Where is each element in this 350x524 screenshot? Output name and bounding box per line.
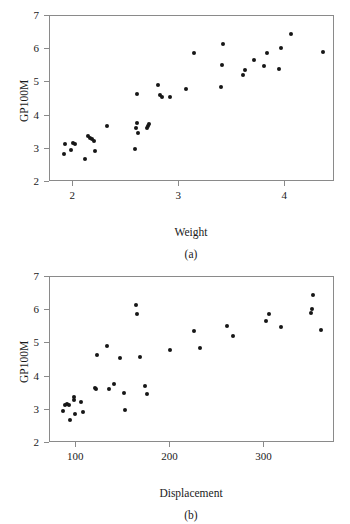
data-point-b	[68, 418, 72, 422]
data-point-a	[160, 95, 164, 99]
y-tick-label-b: 6	[17, 304, 39, 315]
y-tick-a	[44, 115, 49, 116]
chart-panel-a: 234567 234 GP100M Weight (a)	[0, 0, 350, 262]
data-point-a	[63, 142, 67, 146]
data-point-a	[321, 50, 325, 54]
x-tick-label-a: 3	[176, 190, 182, 201]
data-point-b	[198, 346, 202, 350]
data-point-a	[289, 32, 293, 36]
data-point-b	[279, 325, 283, 329]
x-tick-b	[263, 442, 264, 447]
data-point-b	[81, 410, 85, 414]
data-point-a	[168, 95, 172, 99]
data-point-a	[134, 126, 138, 130]
data-point-b	[231, 334, 235, 338]
data-point-a	[92, 139, 96, 143]
data-point-b	[118, 356, 122, 360]
y-tick-label-a: 6	[17, 43, 39, 54]
data-point-a	[279, 46, 283, 50]
data-point-b	[79, 400, 83, 404]
y-tick-label-b: 7	[17, 271, 39, 282]
y-tick-label-b: 2	[17, 437, 39, 448]
data-point-a	[105, 124, 109, 128]
y-tick-a	[44, 81, 49, 82]
data-point-a	[90, 137, 94, 141]
panel-caption-b: (b)	[184, 509, 197, 521]
data-point-b	[168, 348, 172, 352]
data-point-a	[265, 51, 269, 55]
data-point-a	[133, 147, 137, 151]
data-point-b	[319, 328, 323, 332]
x-tick-a	[284, 181, 285, 186]
data-point-b	[311, 293, 315, 297]
x-tick-a	[178, 181, 179, 186]
data-point-b	[105, 344, 109, 348]
data-point-b	[143, 384, 147, 388]
data-point-a	[136, 131, 140, 135]
data-point-a	[86, 134, 90, 138]
data-point-b	[138, 355, 142, 359]
y-tick-label-a: 7	[17, 10, 39, 21]
x-axis-title-a: Weight	[175, 226, 208, 238]
data-point-b	[112, 382, 116, 386]
y-axis-title-b: GP100M	[18, 341, 30, 383]
data-point-a	[252, 58, 256, 62]
data-point-b	[67, 403, 71, 407]
data-point-a	[73, 142, 77, 146]
data-point-b	[135, 312, 139, 316]
y-tick-b	[44, 376, 49, 377]
figure-page: 234567 234 GP100M Weight (a) 234567 1002…	[0, 0, 350, 524]
data-point-b	[264, 319, 268, 323]
data-point-b	[134, 303, 138, 307]
data-point-b	[267, 312, 271, 316]
plot-area-b	[49, 276, 334, 442]
data-point-a	[262, 64, 266, 68]
data-point-a	[241, 73, 245, 77]
data-point-a	[83, 157, 87, 161]
data-point-b	[94, 387, 98, 391]
y-tick-a	[44, 148, 49, 149]
chart-panel-b: 234567 100200300 GP100M Displacement (b)	[0, 262, 350, 524]
data-point-a	[69, 148, 73, 152]
y-tick-label-b: 3	[17, 403, 39, 414]
data-point-a	[221, 42, 225, 46]
x-axis-title-b: Displacement	[159, 487, 222, 499]
y-tick-a	[44, 15, 49, 16]
x-tick-label-a: 4	[281, 190, 287, 201]
y-tick-b	[44, 409, 49, 410]
data-point-b	[72, 395, 76, 399]
data-point-b	[145, 392, 149, 396]
y-tick-label-a: 2	[17, 176, 39, 187]
data-point-a	[147, 122, 151, 126]
x-tick-label-b: 200	[161, 451, 178, 462]
data-point-a	[88, 136, 92, 140]
y-tick-b	[44, 276, 49, 277]
data-point-a	[135, 121, 139, 125]
data-point-a	[146, 124, 150, 128]
scatter-points-a	[50, 16, 333, 180]
data-point-a	[243, 68, 247, 72]
x-tick-a	[72, 181, 73, 186]
y-tick-b	[44, 442, 49, 443]
data-point-b	[72, 398, 76, 402]
y-axis-title-a: GP100M	[18, 80, 30, 122]
data-point-b	[95, 353, 99, 357]
data-point-a	[156, 83, 160, 87]
data-point-a	[277, 67, 281, 71]
data-point-a	[135, 92, 139, 96]
data-point-a	[184, 87, 188, 91]
data-point-b	[225, 324, 229, 328]
data-point-b	[107, 387, 111, 391]
x-tick-b	[75, 442, 76, 447]
data-point-a	[158, 93, 162, 97]
x-tick-label-b: 300	[255, 451, 272, 462]
data-point-b	[73, 412, 77, 416]
data-point-a	[219, 85, 223, 89]
scatter-points-b	[50, 277, 333, 441]
x-tick-label-a: 2	[70, 190, 76, 201]
data-point-b	[122, 391, 126, 395]
data-point-a	[145, 126, 149, 130]
y-tick-a	[44, 48, 49, 49]
data-point-a	[220, 63, 224, 67]
x-tick-label-b: 100	[67, 451, 84, 462]
